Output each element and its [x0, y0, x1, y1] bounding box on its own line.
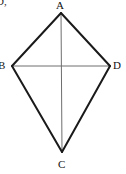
vertex-label-d: D — [113, 60, 121, 71]
vertex-label-a: A — [56, 0, 64, 11]
kite-diagram-svg — [0, 0, 126, 174]
geometry-figure-container: D, A B C D — [0, 0, 126, 174]
kite-diagonals — [12, 13, 110, 152]
diagonal-AC — [61, 13, 62, 152]
edge-DC — [62, 66, 110, 152]
edge-BC — [12, 66, 62, 152]
edge-AD — [61, 13, 110, 66]
edge-AB — [12, 13, 61, 66]
vertex-label-b: B — [0, 60, 5, 71]
vertex-label-c: C — [58, 159, 65, 170]
